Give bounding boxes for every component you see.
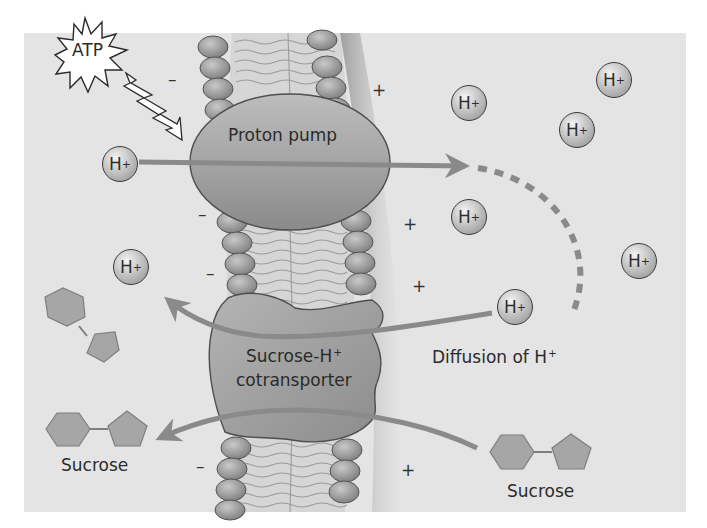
ion-charge: + (579, 124, 588, 137)
ion-symbol: H (603, 70, 616, 90)
hydrogen-ion: H+ (102, 146, 138, 182)
positive-charge-sign: + (412, 278, 426, 295)
sucrose-h-cotransporter (209, 293, 383, 441)
negative-charge-sign: – (196, 458, 205, 475)
sucrose-label-left: Sucrose (61, 455, 128, 475)
sucrose-molecule-right (490, 434, 591, 469)
ion-symbol: H (109, 154, 122, 174)
positive-charge-sign: + (372, 82, 386, 99)
ion-charge: + (122, 158, 131, 171)
hydrogen-ion: H+ (113, 249, 149, 285)
ion-charge: + (616, 74, 625, 87)
hydrogen-ion: H+ (497, 289, 533, 325)
atp-label: ATP (72, 40, 103, 60)
positive-charge-sign: + (403, 216, 417, 233)
cotransporter-label-line2: cotransporter (236, 370, 352, 390)
ion-symbol: H (566, 120, 579, 140)
pump-arrow (139, 162, 465, 166)
hydrogen-ion: H+ (451, 85, 487, 121)
hydrogen-ion: H+ (596, 62, 632, 98)
positive-charge-sign: + (401, 462, 415, 479)
ion-symbol: H (120, 257, 133, 277)
cotransporter-label-superscript: + (333, 346, 342, 358)
ion-symbol: H (458, 207, 471, 227)
ion-symbol: H (504, 297, 517, 317)
ion-charge: + (641, 255, 650, 268)
sucrose-label-right: Sucrose (507, 481, 574, 501)
ion-symbol: H (628, 251, 641, 271)
hydrogen-ion: H+ (621, 243, 657, 279)
negative-charge-sign: – (198, 206, 207, 223)
ion-charge: + (133, 261, 142, 274)
negative-charge-sign: – (206, 265, 215, 282)
proton-pump-label: Proton pump (228, 125, 337, 145)
hydrogen-ion: H+ (451, 199, 487, 235)
hydrogen-ion: H+ (559, 112, 595, 148)
cotransporter-label-line1: Sucrose-H+ (246, 346, 342, 366)
sucrose-molecule-left (46, 411, 147, 446)
cotransporter-label-text: Sucrose-H (246, 346, 332, 366)
sucrose-molecule-loose (45, 288, 119, 362)
ion-charge: + (471, 211, 480, 224)
ion-charge: + (517, 301, 526, 314)
ion-symbol: H (458, 93, 471, 113)
diffusion-label: Diffusion of H+ (432, 347, 557, 367)
diffusion-label-superscript: + (548, 347, 557, 359)
ion-charge: + (471, 97, 480, 110)
negative-charge-sign: – (168, 71, 177, 88)
diffusion-label-text: Diffusion of H (432, 347, 547, 367)
diffusion-path-dashed (478, 168, 580, 315)
